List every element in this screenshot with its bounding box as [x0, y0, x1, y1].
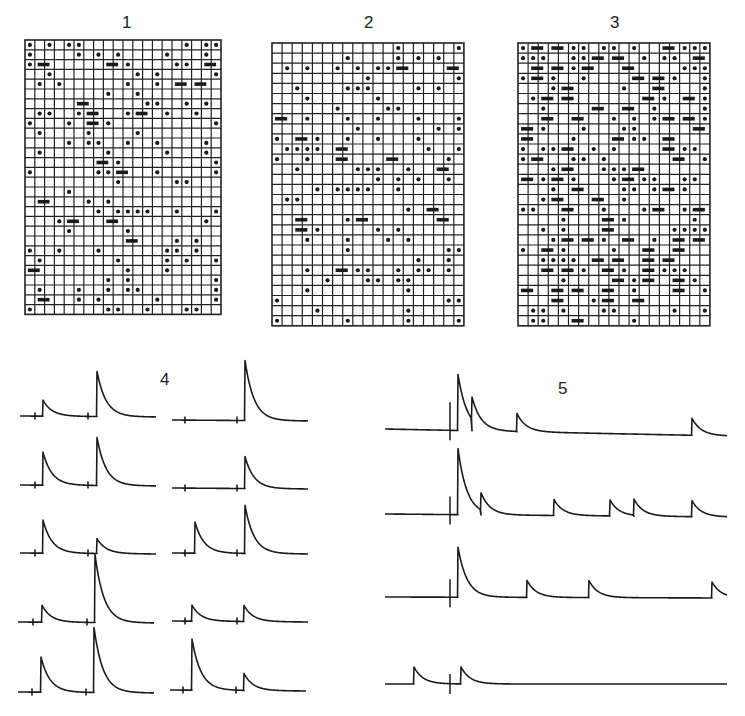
panel-4-trace-3-left: [20, 520, 156, 556]
panel-4-trace-1-left: [20, 372, 156, 420]
panel-label-1: 1: [122, 14, 131, 31]
panel-label-5: 5: [558, 380, 567, 397]
panel-5-trace-1: [385, 374, 727, 440]
panel-4-traces: [18, 361, 308, 696]
panel-label-4: 4: [160, 371, 169, 388]
panel-5-trace-4: [385, 667, 727, 694]
grid-panel-3: [518, 43, 710, 326]
panel-4-trace-5-left: [18, 627, 154, 695]
panel-4-trace-1-right: [172, 361, 308, 424]
panel-4-trace-4-left: [18, 555, 154, 626]
grid-panel-1: [25, 40, 221, 314]
panel-4-trace-4-right: [172, 605, 308, 624]
figure-canvas: [0, 0, 745, 716]
panel-5-trace-3: [385, 547, 727, 607]
panel-4-trace-2-left: [20, 437, 156, 488]
panel-5-traces: [385, 374, 727, 694]
panel-label-2: 2: [364, 14, 373, 31]
panel-5-trace-2: [385, 449, 727, 525]
panel-label-3: 3: [610, 14, 619, 31]
panel-4-trace-2-right: [172, 457, 308, 492]
grid-panel-2: [272, 43, 464, 326]
panel-4-trace-3-right: [172, 505, 308, 556]
panel-4-trace-5-right: [170, 639, 306, 693]
